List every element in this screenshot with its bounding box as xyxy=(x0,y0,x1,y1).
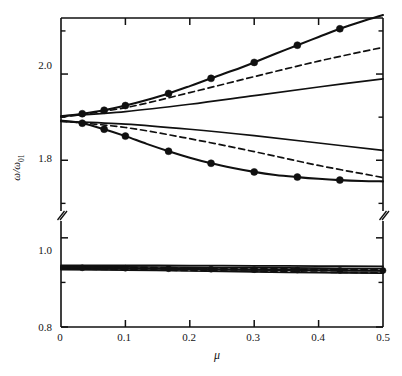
data-point xyxy=(337,267,343,273)
xtick-label-0-2: 0.2 xyxy=(179,331,199,343)
data-point xyxy=(208,160,215,167)
x-axis-title: μ xyxy=(214,348,220,363)
data-point xyxy=(79,265,85,271)
xtick-label-0-3: 0.3 xyxy=(243,331,263,343)
data-point xyxy=(251,59,258,66)
data-point xyxy=(336,177,343,184)
data-point xyxy=(294,174,301,181)
curve-lower-branch-solid-plain xyxy=(61,121,383,150)
data-point xyxy=(336,25,343,32)
chart-figure: 2.0 1.8 1.0 0.8 0 0.1 0.2 0.3 0.4 0.5 μ … xyxy=(0,0,402,376)
data-point xyxy=(79,120,86,127)
ytick-label-1-8: 1.8 xyxy=(22,152,52,164)
data-point xyxy=(122,265,128,271)
xtick-label-0-5: 0.5 xyxy=(373,331,393,343)
curve-lower-branch-markers xyxy=(61,121,383,182)
data-point xyxy=(208,266,214,272)
curve-upper-branch-markers xyxy=(61,15,383,116)
tick-marks xyxy=(61,18,383,327)
ytick-label-1-0: 1.0 xyxy=(22,244,52,256)
axis-break-marks xyxy=(58,211,390,220)
data-point xyxy=(208,75,215,82)
data-point xyxy=(251,168,258,175)
plot-canvas xyxy=(0,0,402,376)
data-point xyxy=(251,267,257,273)
curve-lower-branch-dashed xyxy=(61,121,383,177)
data-point xyxy=(165,90,172,97)
y-axis-title-text: ω/ω xyxy=(10,162,22,181)
data-point xyxy=(294,267,300,273)
xtick-label-0-4: 0.4 xyxy=(308,331,328,343)
y-axis-title: ω/ω01 xyxy=(10,138,25,198)
ytick-label-0-8: 0.8 xyxy=(22,321,52,333)
data-point xyxy=(122,133,129,140)
curve-upper-branch-dashed xyxy=(61,47,383,117)
data-point xyxy=(101,107,108,114)
data-point xyxy=(165,148,172,155)
data-point xyxy=(79,110,86,117)
data-markers xyxy=(79,25,386,273)
data-curves xyxy=(61,15,383,273)
y-axis-title-subscript: 01 xyxy=(17,155,26,163)
ytick-label-2-0: 2.0 xyxy=(22,59,52,71)
data-point xyxy=(101,126,108,133)
data-point xyxy=(166,266,172,272)
data-point xyxy=(122,102,129,109)
xtick-label-0-1: 0.1 xyxy=(114,331,134,343)
data-point xyxy=(294,42,301,49)
xtick-label-0: 0 xyxy=(50,331,70,343)
axis-frame xyxy=(61,18,383,327)
data-point xyxy=(380,268,386,274)
